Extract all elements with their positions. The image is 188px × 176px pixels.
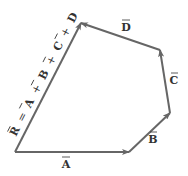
svg-text:D: D — [121, 21, 131, 34]
vector-addition-diagram: A B C D R = A + B + C + D — [0, 0, 188, 176]
vector-c-arrow — [160, 50, 170, 113]
label-a: A — [61, 157, 71, 171]
label-b: B — [148, 132, 157, 146]
label-d: D — [121, 20, 131, 34]
vector-r-arrow — [15, 23, 81, 152]
label-r-equation: R = A + B + C + D — [7, 10, 81, 138]
svg-text:B: B — [148, 133, 157, 146]
label-c: C — [170, 73, 179, 87]
svg-text:A: A — [61, 158, 71, 171]
svg-text:R = A +: R = A + B + C + D — [7, 10, 81, 138]
svg-text:C: C — [170, 74, 179, 87]
